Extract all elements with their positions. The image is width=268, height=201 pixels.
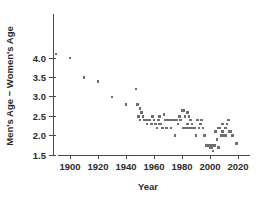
data-point (139, 107, 142, 110)
data-point (196, 119, 199, 122)
data-point (136, 103, 139, 106)
y-tick-label: 2.0 (33, 130, 46, 141)
data-point (153, 119, 156, 122)
x-axis-title: Year (138, 181, 158, 192)
data-point (144, 119, 147, 122)
data-point (140, 111, 143, 114)
data-point (146, 123, 149, 126)
data-point (220, 134, 223, 137)
x-tick-label: 2020 (227, 161, 248, 172)
y-tick-labels: 1.52.02.53.03.54.0 (33, 53, 47, 161)
y-tick-label: 4.0 (33, 53, 46, 64)
data-point (210, 146, 213, 149)
x-tick-label: 1920 (87, 161, 108, 172)
scatter-chart: 1900192019401960198020002020 1.52.02.53.… (0, 0, 268, 201)
data-point (227, 119, 230, 122)
data-point (135, 88, 138, 91)
data-point (186, 111, 189, 114)
data-point (178, 115, 181, 118)
data-point (216, 138, 219, 141)
data-point (188, 115, 191, 118)
ticks-group (49, 58, 238, 159)
data-point (230, 130, 233, 133)
data-point (175, 119, 178, 122)
data-point (189, 127, 192, 130)
data-point (69, 57, 72, 60)
data-point (221, 123, 224, 126)
data-point (221, 130, 224, 133)
data-point (189, 119, 192, 122)
y-axis-title: Men's Age − Women's Age (4, 26, 15, 146)
data-point (212, 150, 215, 153)
data-point (195, 134, 198, 137)
y-tick-label: 3.0 (33, 91, 46, 102)
y-tick-label: 1.5 (33, 150, 47, 161)
data-point (165, 127, 168, 130)
data-point (157, 119, 160, 122)
data-point (198, 127, 201, 130)
data-point (203, 134, 206, 137)
data-point (151, 115, 154, 118)
data-point (231, 134, 234, 137)
data-point (163, 113, 166, 116)
data-points-group (55, 53, 238, 153)
data-point (226, 123, 229, 126)
x-tick-label: 1940 (115, 161, 136, 172)
data-point (158, 115, 161, 118)
data-point (235, 142, 238, 145)
data-point (83, 76, 86, 79)
data-point (224, 134, 227, 137)
x-tick-label: 1900 (59, 161, 80, 172)
data-point (154, 123, 157, 126)
data-point (177, 123, 180, 126)
x-tick-labels: 1900192019401960198020002020 (59, 161, 248, 172)
x-tick-label: 1960 (143, 161, 164, 172)
data-point (191, 123, 194, 126)
data-point (199, 123, 202, 126)
data-point (97, 80, 100, 83)
data-point (193, 127, 196, 130)
data-point (137, 115, 140, 118)
x-tick-label: 1980 (171, 161, 192, 172)
data-point (156, 127, 159, 130)
data-point (139, 119, 142, 122)
data-point (111, 96, 114, 99)
data-point (182, 127, 185, 130)
data-point (179, 119, 182, 122)
y-tick-label: 2.5 (33, 111, 47, 122)
data-point (150, 123, 153, 126)
plot-canvas: 1900192019401960198020002020 1.52.02.53.… (0, 0, 268, 201)
data-point (213, 144, 216, 147)
y-tick-label: 3.5 (33, 72, 47, 83)
data-point (202, 127, 205, 130)
data-point (184, 115, 187, 118)
data-point (182, 109, 185, 112)
data-point (142, 115, 145, 118)
axes-group (53, 14, 250, 155)
data-point (125, 103, 128, 106)
x-tick-label: 2000 (199, 161, 220, 172)
data-point (149, 119, 152, 122)
data-point (160, 123, 163, 126)
data-point (170, 127, 173, 130)
data-point (217, 146, 220, 149)
data-point (185, 127, 188, 130)
data-point (168, 119, 171, 122)
data-point (55, 53, 58, 56)
data-point (172, 119, 175, 122)
data-point (224, 127, 227, 130)
data-point (164, 119, 167, 122)
data-point (214, 130, 217, 133)
data-point (174, 134, 177, 137)
data-point (200, 119, 203, 122)
data-point (186, 123, 189, 126)
data-point (219, 127, 222, 130)
data-point (161, 127, 164, 130)
